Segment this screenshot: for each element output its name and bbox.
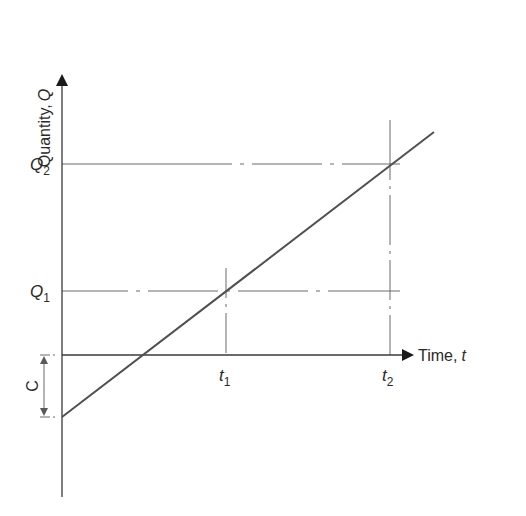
- bracket-arrow-up-icon: [40, 356, 48, 364]
- bracket-arrow-down-icon: [40, 408, 48, 416]
- diagram: Quantity,Q Time,t Q2 Q1 t1 t2 C: [0, 0, 526, 516]
- quantity-time-graph: Quantity,Q Time,t Q2 Q1 t1 t2 C: [0, 0, 526, 516]
- intercept-label: C: [24, 380, 41, 392]
- y-axis-arrow-icon: [56, 74, 68, 86]
- x-axis-arrow-icon: [402, 349, 414, 361]
- t1-label: t1: [219, 366, 231, 389]
- q1-label: Q1: [30, 282, 50, 305]
- quantity-line: [62, 132, 434, 417]
- x-axis-label: Time,t: [418, 347, 466, 364]
- t2-label: t2: [382, 366, 394, 389]
